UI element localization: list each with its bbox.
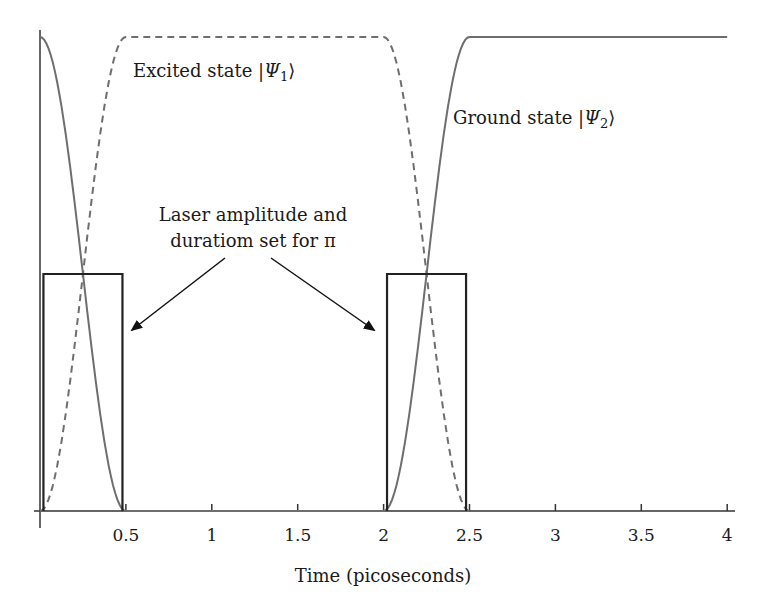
x-tick-label: 3.5: [628, 525, 655, 545]
annotation-arrow-right: [271, 258, 374, 330]
x-tick-label: 0.5: [112, 525, 139, 545]
chart-svg: 0.511.522.533.54 Excited state |Ψ1⟩ Grou…: [0, 0, 764, 610]
x-tick-label: 1: [206, 525, 217, 545]
laser-pulse-curve: [43, 274, 466, 511]
excited-state-label: Excited state |Ψ1⟩: [133, 60, 295, 84]
x-tick-label: 4: [722, 525, 733, 545]
x-tick-label: 3: [550, 525, 561, 545]
x-axis-label: Time (picoseconds): [295, 565, 472, 586]
ground-state-curve: [40, 37, 727, 511]
ground-state-label: Ground state |Ψ2⟩: [453, 107, 615, 131]
laser-annotation-line1: Laser amplitude and: [159, 204, 347, 225]
x-tick-label: 2.5: [456, 525, 483, 545]
laser-annotation-line2: duratiom set for π: [170, 230, 336, 251]
x-tick-label: 1.5: [284, 525, 311, 545]
x-tick-label: 2: [378, 525, 389, 545]
annotation-arrow-left: [132, 258, 225, 330]
chart: 0.511.522.533.54 Excited state |Ψ1⟩ Grou…: [0, 0, 764, 610]
